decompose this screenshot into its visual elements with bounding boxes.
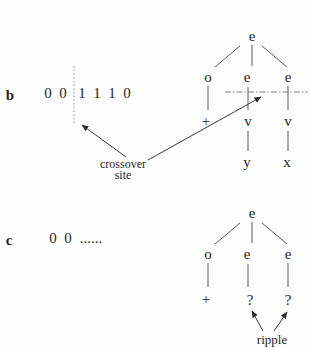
tree-c-node-o: o <box>204 247 212 262</box>
crossover-figure: b 0 0 1 1 1 0 crossover site e o e e + v… <box>0 0 310 348</box>
tree-c-node-e-mid: e <box>244 247 251 262</box>
tree-c-node-plus: + <box>202 292 210 307</box>
tree-b-node-o: o <box>204 70 212 85</box>
tree-c-node-root-e: e <box>249 206 256 221</box>
tree-b-edge-root-right <box>262 46 287 67</box>
tree-b-node-plus: + <box>202 114 210 129</box>
ripple-arrow-left <box>252 311 263 331</box>
tree-c-edge-root-right <box>262 223 287 244</box>
crossover-arrow-to-bitstring <box>82 125 126 157</box>
crossover-site-label-line2: site <box>115 169 132 181</box>
ripple-label: ripple <box>257 333 287 346</box>
bitstring-c-ellipsis: ...... <box>80 231 103 246</box>
tree-b-node-x: x <box>283 155 291 170</box>
tree-c-node-q-mid: ? <box>247 293 254 308</box>
crossover-arrow-to-tree <box>148 97 261 160</box>
bitstring-b-digit: 0 <box>59 86 67 101</box>
bitstring-b-digit: 0 <box>123 86 131 101</box>
tree-b-node-v-mid: v <box>244 114 252 129</box>
tree-c-node-q-right: ? <box>285 293 292 308</box>
bitstring-b-digit: 0 <box>44 86 52 101</box>
bitstring-b-digit: 1 <box>78 86 86 101</box>
tree-b-edge-root-left <box>215 46 240 67</box>
figure-lines-layer <box>0 0 310 348</box>
panel-c-label: c <box>6 233 13 248</box>
bitstring-b-digit: 1 <box>108 86 116 101</box>
tree-b-node-v-right: v <box>284 114 292 129</box>
panel-b-label: b <box>6 88 14 103</box>
bitstring-c-digit: 0 <box>49 231 57 246</box>
tree-b-node-y: y <box>243 155 251 170</box>
tree-c-edge-root-left <box>215 223 240 244</box>
ripple-arrow-right <box>274 312 287 331</box>
tree-b-node-e-right: e <box>285 70 292 85</box>
tree-b-node-root-e: e <box>249 29 256 44</box>
bitstring-c-digit: 0 <box>64 231 72 246</box>
tree-b-node-e-mid: e <box>244 70 251 85</box>
tree-c-node-e-right: e <box>285 247 292 262</box>
bitstring-b-digit: 1 <box>93 86 101 101</box>
